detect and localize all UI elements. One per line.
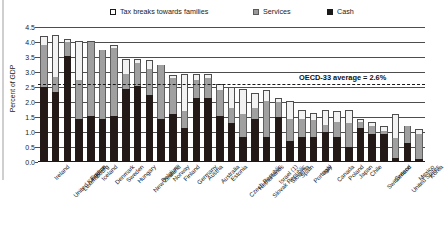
bar-segment-cash <box>122 89 130 163</box>
bar-segment-services <box>64 42 72 56</box>
bar-united-kingdom <box>52 35 60 163</box>
bar-segment-tax-breaks <box>286 101 294 119</box>
gridline <box>38 27 425 28</box>
bar-segment-services <box>40 45 48 87</box>
bar-segment-cash <box>40 87 48 162</box>
y-tick-label: 2.5 <box>25 84 35 91</box>
bar-segment-tax-breaks <box>75 41 83 80</box>
bar-segment-cash <box>263 137 271 163</box>
bar-poland <box>333 111 341 162</box>
bar-segment-cash <box>286 141 294 162</box>
bar-segment-cash <box>204 98 212 163</box>
bar-switzerland <box>368 122 376 163</box>
bar-segment-cash <box>310 137 318 163</box>
bar-segment-tax-breaks <box>146 60 154 69</box>
bar-finland <box>169 75 177 162</box>
bar-mexico <box>404 126 412 162</box>
bar-segment-services <box>333 122 341 137</box>
legend-label-cash: Cash <box>337 7 354 16</box>
bar-united-states <box>392 114 400 162</box>
bar-segment-cash <box>275 117 283 162</box>
bar-segment-cash <box>157 119 165 163</box>
bar-denmark <box>99 50 107 163</box>
legend-label-services: Services <box>263 7 291 16</box>
y-tick-label: 0.5 <box>25 144 35 151</box>
bar-segment-services <box>193 80 201 98</box>
y-tick-label: 4.0 <box>25 39 35 46</box>
bar-segment-cash <box>298 137 306 163</box>
gridline <box>38 42 425 43</box>
bar-segment-tax-breaks <box>345 110 353 124</box>
bar-segment-cash <box>333 137 341 163</box>
family-benefits-public-spending-chart: Tax breaks towards families Services Cas… <box>0 0 446 234</box>
gridline <box>38 57 425 58</box>
bar-segment-cash <box>146 95 154 163</box>
bar-segment-tax-breaks <box>228 87 236 108</box>
plot-area: 0.00.51.01.52.02.53.03.54.04.5 OECD-33 a… <box>38 27 425 162</box>
bar-segment-cash <box>193 98 201 163</box>
y-tick-mark <box>35 42 38 43</box>
bar-segment-cash <box>357 128 365 163</box>
bar-segment-tax-breaks <box>122 59 130 74</box>
bar-segment-cash <box>87 116 95 163</box>
bar-ireland <box>40 36 48 162</box>
bar-segment-services <box>286 119 294 142</box>
y-tick-mark <box>35 132 38 133</box>
bar-segment-services <box>275 102 283 117</box>
bar-segment-cash <box>181 128 189 163</box>
bar-norway <box>157 65 165 163</box>
y-axis-title: Percent of GDP <box>9 49 16 129</box>
bar-segment-services <box>87 42 95 116</box>
legend-item-services: Services <box>253 7 291 16</box>
bar-segment-services <box>404 126 412 143</box>
bar-segment-tax-breaks <box>263 90 271 101</box>
bar-australia <box>204 74 212 163</box>
bar-segment-services <box>75 80 83 119</box>
y-tick-mark <box>35 87 38 88</box>
x-axis-baseline <box>38 161 425 162</box>
bar-korea <box>415 129 423 162</box>
x-axis-label: Ireland <box>53 163 71 181</box>
bar-segment-services <box>322 125 330 133</box>
bar-greece <box>380 126 388 162</box>
bar-segment-cash <box>216 116 224 163</box>
bar-segment-services <box>122 74 130 89</box>
legend-swatch-services-icon <box>253 9 259 15</box>
bar-segment-tax-breaks <box>181 74 189 112</box>
legend-item-cash: Cash <box>327 7 354 16</box>
bar-segment-cash <box>368 134 376 163</box>
bar-segment-tax-breaks <box>251 93 259 108</box>
bar-netherlands <box>239 89 247 163</box>
bar-segment-services <box>216 90 224 116</box>
bar-czech-republic <box>228 87 236 162</box>
bar-israel-1 <box>263 90 271 162</box>
bar-belgium <box>146 60 154 162</box>
bar-segment-cash <box>322 132 330 162</box>
y-tick-mark <box>35 57 38 58</box>
bar-portugal <box>298 110 306 163</box>
bar-segment-tax-breaks <box>392 114 400 138</box>
bar-segment-cash <box>228 123 236 162</box>
bar-segment-cash <box>169 114 177 162</box>
x-axis-label: Greece <box>393 163 412 182</box>
bar-iceland <box>87 41 95 163</box>
y-tick-mark <box>35 72 38 73</box>
bar-italy <box>310 113 318 163</box>
y-tick-label: 1.0 <box>25 129 35 136</box>
bar-segment-tax-breaks <box>40 36 48 45</box>
y-tick-label: 4.5 <box>25 24 35 31</box>
bar-new-zealand <box>134 59 142 163</box>
bar-segment-cash <box>110 116 118 163</box>
bar-segment-services <box>263 101 271 137</box>
y-tick-mark <box>35 147 38 148</box>
bar-segment-tax-breaks <box>310 113 318 121</box>
y-tick-mark <box>35 102 38 103</box>
bar-segment-services <box>368 126 376 134</box>
bar-slovak-republic <box>251 93 259 162</box>
bar-japan <box>345 110 353 163</box>
y-tick-label: 0.0 <box>25 159 35 166</box>
bar-segment-services <box>228 108 236 123</box>
bar-segment-cash <box>75 119 83 163</box>
bar-segment-services <box>110 48 118 116</box>
legend-swatch-tax-breaks-icon <box>110 9 116 15</box>
